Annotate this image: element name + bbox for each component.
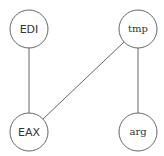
node-label: tmp	[128, 23, 148, 34]
node-edi: EDI	[10, 10, 48, 48]
node-arg: arg	[119, 113, 157, 151]
node-label: EDI	[20, 23, 39, 36]
node-tmp: tmp	[119, 10, 157, 48]
node-eax: EAX	[10, 113, 48, 151]
node-label: arg	[129, 126, 147, 137]
edge-tmp-eax	[43, 42, 124, 119]
interference-graph: EDI tmp EAX arg	[0, 0, 164, 156]
node-label: EAX	[18, 126, 40, 139]
